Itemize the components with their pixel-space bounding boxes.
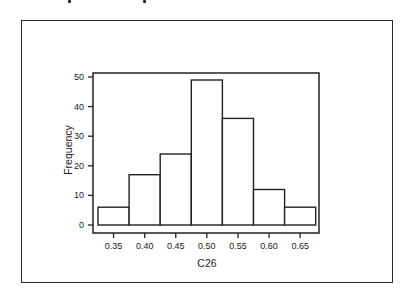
x-tick-label: 0.45 bbox=[167, 241, 185, 251]
histogram-bar bbox=[191, 80, 222, 225]
y-tick-label: 40 bbox=[74, 102, 84, 112]
x-tick-label: 0.50 bbox=[198, 241, 216, 251]
y-axis: 01020304050 bbox=[74, 72, 93, 230]
x-axis: 0.350.400.450.500.550.600.65 bbox=[105, 233, 309, 251]
x-tick-label: 0.55 bbox=[229, 241, 247, 251]
y-axis-label: Frequency bbox=[62, 124, 74, 174]
y-tick-label: 0 bbox=[79, 220, 84, 230]
histogram-bar bbox=[98, 207, 129, 225]
histogram-bars bbox=[98, 80, 316, 225]
histogram-bar bbox=[285, 207, 316, 225]
x-tick-label: 0.60 bbox=[260, 241, 278, 251]
x-tick-label: 0.65 bbox=[291, 241, 309, 251]
y-tick-label: 20 bbox=[74, 161, 84, 171]
x-axis-label: C26 bbox=[197, 257, 216, 269]
y-tick-label: 10 bbox=[74, 190, 84, 200]
histogram-bar bbox=[254, 190, 285, 226]
y-tick-label: 30 bbox=[74, 131, 84, 141]
histogram-bar bbox=[129, 175, 160, 225]
y-tick-label: 50 bbox=[74, 72, 84, 82]
x-tick-label: 0.40 bbox=[136, 241, 154, 251]
histogram-chart: 01020304050 0.350.400.450.500.550.600.65… bbox=[0, 0, 409, 302]
histogram-bar bbox=[222, 118, 253, 225]
x-tick-label: 0.35 bbox=[105, 241, 123, 251]
histogram-bar bbox=[160, 154, 191, 225]
